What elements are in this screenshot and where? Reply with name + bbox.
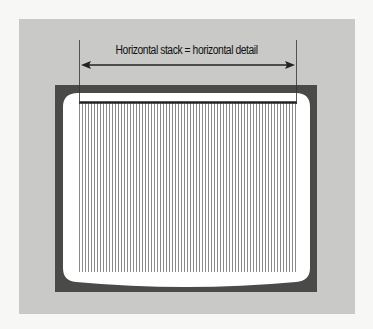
double-arrow-icon — [81, 61, 295, 69]
diagram-graphics — [0, 0, 373, 329]
